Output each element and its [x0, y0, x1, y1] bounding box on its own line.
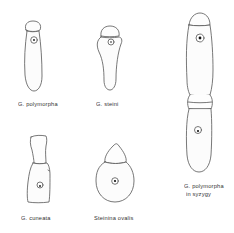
steinina-ovalis-drawing [96, 144, 134, 202]
g-polymorpha-syzygy-label-line1: G. polymorpha [184, 182, 224, 190]
g-steini-label: G. steini [96, 100, 119, 108]
g-cuneata-drawing [27, 135, 50, 202]
g-polymorpha-label: G. polymorpha [18, 100, 58, 108]
g-polymorpha-syzygy-label-line2: in syzygy [186, 190, 211, 198]
steinina-ovalis-label: Steinina ovalis [94, 214, 133, 222]
g-polymorpha-syzygy-drawing [186, 13, 213, 172]
g-steini-drawing [97, 26, 122, 90]
specimen-drawings [0, 0, 234, 233]
gregarine-species-figure: G. polymorpha G. steini G. cuneata Stein… [0, 0, 234, 233]
g-cuneata-label: G. cuneata [21, 214, 51, 222]
g-polymorpha-drawing [25, 21, 42, 91]
